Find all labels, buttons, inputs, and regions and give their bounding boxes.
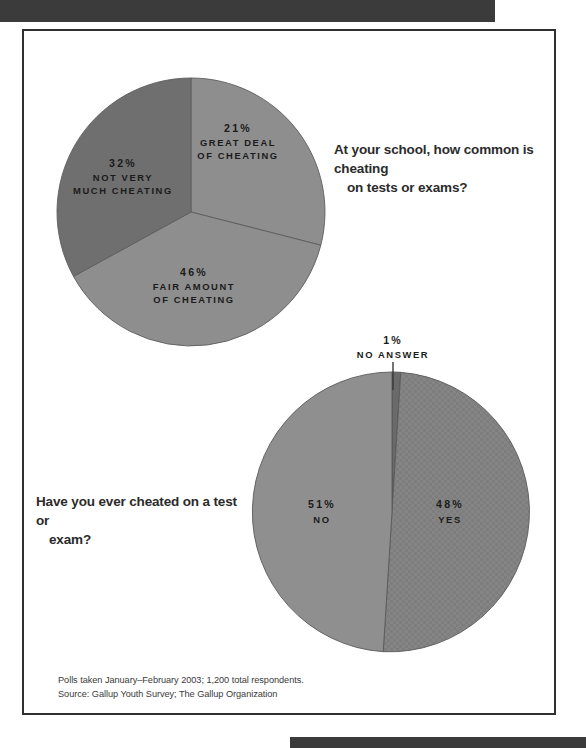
- question-1-line-1: At your school, how common is cheating: [334, 142, 534, 176]
- source-note-line-2: Source: Gallup Youth Survey; The Gallup …: [58, 687, 458, 701]
- question-2-line-1: Have you ever cheated on a test or: [36, 494, 237, 528]
- source-note: Polls taken January–February 2003; 1,200…: [58, 673, 458, 702]
- page-band-top: [0, 0, 495, 22]
- source-note-line-1: Polls taken January–February 2003; 1,200…: [58, 673, 458, 687]
- question-1-line-2: on tests or exams?: [334, 178, 549, 197]
- page-frame: [22, 29, 556, 715]
- question-2-line-2: exam?: [36, 530, 251, 549]
- question-school-cheating: At your school, how common is cheating o…: [334, 140, 549, 197]
- question-ever-cheated: Have you ever cheated on a test or exam?: [36, 492, 251, 549]
- page-band-bottom: [290, 737, 586, 748]
